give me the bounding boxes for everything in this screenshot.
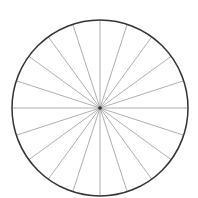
spoke	[73, 108, 100, 192]
spoke	[73, 24, 100, 108]
spoke	[100, 108, 152, 179]
spoke	[100, 108, 171, 160]
spoke	[16, 108, 100, 135]
spoke	[29, 56, 100, 108]
spoke	[100, 37, 152, 108]
center-hub	[98, 106, 102, 110]
spoke	[100, 24, 127, 108]
spoke	[16, 81, 100, 108]
spoke	[100, 108, 184, 135]
spoke	[100, 108, 127, 192]
spoke	[29, 108, 100, 160]
spoked-circle-diagram	[0, 0, 198, 198]
spoke	[48, 108, 100, 179]
spoke	[48, 37, 100, 108]
spoke	[100, 81, 184, 108]
spoke	[100, 56, 171, 108]
